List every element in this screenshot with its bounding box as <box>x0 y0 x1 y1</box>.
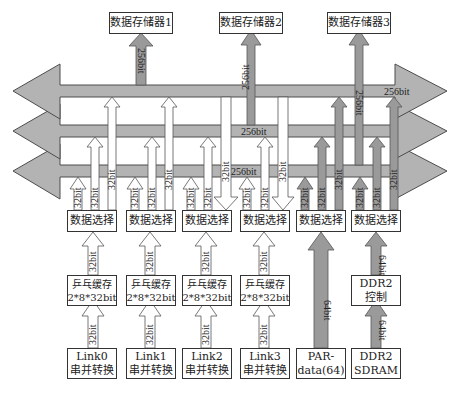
svg-text:32bit: 32bit <box>200 251 211 272</box>
source-title: Link3 <box>249 350 281 364</box>
source-link0: Link0串并转换 <box>67 348 117 379</box>
memory-3-box: 数据存储器3 <box>327 12 391 34</box>
selector-1: 数据选择 <box>67 210 117 232</box>
source-par-data: PAR-data(64) <box>296 348 346 379</box>
ddr-ctrl-subtitle: 控制 <box>365 291 387 305</box>
buffer-size: 2*8*32bit <box>67 291 116 304</box>
buffer-4: 乒乓缓存2*8*32bit <box>240 275 290 306</box>
selector-6: 数据选择 <box>351 210 401 232</box>
source-title: DDR2 <box>360 350 393 364</box>
svg-text:64bit: 64bit <box>377 255 388 276</box>
memory-1-box: 数据存储器1 <box>109 12 173 34</box>
svg-text:32bit: 32bit <box>333 169 344 190</box>
source-title: PAR- <box>308 350 334 364</box>
source-title: Link0 <box>76 350 108 364</box>
selector-label: 数据选择 <box>185 214 229 228</box>
svg-text:32bit: 32bit <box>258 251 269 272</box>
svg-text:32bit: 32bit <box>277 161 288 182</box>
svg-text:32bit: 32bit <box>146 187 157 208</box>
svg-text:32bit: 32bit <box>200 324 211 345</box>
svg-text:32bit: 32bit <box>72 187 83 208</box>
svg-text:32bit: 32bit <box>129 187 140 208</box>
selector-4: 数据选择 <box>240 210 290 232</box>
selector-label: 数据选择 <box>129 214 173 228</box>
selector-3: 数据选择 <box>182 210 232 232</box>
svg-text:32bit: 32bit <box>89 187 100 208</box>
selector-label: 数据选择 <box>70 214 114 228</box>
selector-label: 数据选择 <box>299 214 343 228</box>
source-subtitle: 串并转换 <box>70 364 114 378</box>
ddr2-controller: DDR2控制 <box>351 275 401 306</box>
svg-text:32bit: 32bit <box>354 187 365 208</box>
source-link3: Link3串并转换 <box>240 348 290 379</box>
memory-2-box: 数据存储器2 <box>219 12 283 34</box>
source-subtitle: 串并转换 <box>129 364 173 378</box>
svg-text:32bit: 32bit <box>202 187 213 208</box>
buffer-title: 乒乓缓存 <box>72 278 112 291</box>
memory-3-label: 数据存储器3 <box>328 16 390 30</box>
svg-text:32bit: 32bit <box>299 187 310 208</box>
svg-text:32bit: 32bit <box>316 187 327 208</box>
buffer-title: 乒乓缓存 <box>187 278 227 291</box>
bus2-label: 256bit <box>241 126 267 137</box>
source-title: Link1 <box>135 350 167 364</box>
svg-text:256bit: 256bit <box>354 90 365 116</box>
buffer-2: 乒乓缓存2*8*32bit <box>126 275 176 306</box>
selector-label: 数据选择 <box>354 214 398 228</box>
svg-text:64bit: 64bit <box>322 300 333 321</box>
par-arrow <box>308 232 334 348</box>
diagram-canvas: .bus { fill:#b3b3b3; stroke:#4d4d4d; str… <box>0 0 459 395</box>
selector-5: 数据选择 <box>296 210 346 232</box>
source-subtitle: SDRAM <box>354 364 398 378</box>
svg-text:32bit: 32bit <box>144 251 155 272</box>
svg-text:32bit: 32bit <box>144 324 155 345</box>
svg-text:32bit: 32bit <box>259 187 270 208</box>
buffer-size: 2*8*32bit <box>182 291 231 304</box>
svg-text:256bit: 256bit <box>136 48 147 74</box>
svg-text:32bit: 32bit <box>185 187 196 208</box>
buffer-title: 乒乓缓存 <box>131 278 171 291</box>
svg-text:32bit: 32bit <box>371 187 382 208</box>
bus3-label: 256bit <box>231 166 257 177</box>
source-link1: Link1串并转换 <box>126 348 176 379</box>
source-link2: Link2串并转换 <box>182 348 232 379</box>
svg-text:32bit: 32bit <box>388 169 399 190</box>
svg-text:32bit: 32bit <box>241 187 252 208</box>
svg-text:64bit: 64bit <box>377 320 388 341</box>
ddr-ctrl-title: DDR2 <box>360 277 393 291</box>
svg-text:256bit: 256bit <box>240 64 251 90</box>
selector-2: 数据选择 <box>126 210 176 232</box>
buffer-title: 乒乓缓存 <box>245 278 285 291</box>
memory-1-label: 数据存储器1 <box>110 16 172 30</box>
bus1-label: 256bit <box>384 86 410 97</box>
source-subtitle: 串并转换 <box>243 364 287 378</box>
selector-label: 数据选择 <box>243 214 287 228</box>
buffer-1: 乒乓缓存2*8*32bit <box>67 275 117 306</box>
source-subtitle: 串并转换 <box>185 364 229 378</box>
svg-text:32bit: 32bit <box>87 324 98 345</box>
svg-text:32bit: 32bit <box>220 161 231 182</box>
svg-text:32bit: 32bit <box>106 169 117 190</box>
source-subtitle: data(64) <box>297 364 344 378</box>
source-title: Link2 <box>191 350 223 364</box>
source-ddr2-sdram: DDR2SDRAM <box>351 348 401 379</box>
svg-text:32bit: 32bit <box>87 251 98 272</box>
buffer-3: 乒乓缓存2*8*32bit <box>182 275 232 306</box>
buffer-size: 2*8*32bit <box>240 291 289 304</box>
buffer-size: 2*8*32bit <box>126 291 175 304</box>
svg-text:32bit: 32bit <box>258 324 269 345</box>
memory-2-label: 数据存储器2 <box>220 16 282 30</box>
svg-text:32bit: 32bit <box>163 169 174 190</box>
